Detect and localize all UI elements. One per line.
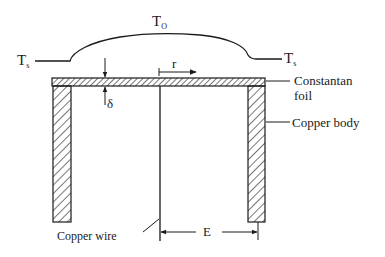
- label-delta: δ: [107, 97, 113, 110]
- label-constantan-foil-line1: Constantan: [294, 74, 353, 87]
- t-center-main: T: [152, 13, 161, 29]
- label-ts-left: Ts: [17, 53, 29, 70]
- temperature-profile-curve: [35, 34, 282, 61]
- label-ts-right: Ts: [284, 51, 296, 68]
- label-copper-body: Copper body: [292, 116, 360, 129]
- label-t-center: TO: [152, 14, 167, 31]
- constantan-foil: [52, 78, 265, 86]
- wire-leader-line: [143, 219, 159, 232]
- t-center-sub: O: [161, 22, 167, 31]
- label-copper-wire: Copper wire: [57, 230, 117, 242]
- label-r: r: [172, 57, 176, 70]
- ts-right-sub: s: [293, 59, 296, 68]
- label-constantan-foil-line2: foil: [294, 89, 312, 102]
- copper-body-left-wall: [53, 86, 71, 222]
- ts-right-main: T: [284, 50, 293, 66]
- copper-body-right-wall: [248, 86, 265, 222]
- label-e: E: [203, 225, 211, 238]
- ts-left-main: T: [17, 52, 26, 68]
- ts-left-sub: s: [26, 61, 29, 70]
